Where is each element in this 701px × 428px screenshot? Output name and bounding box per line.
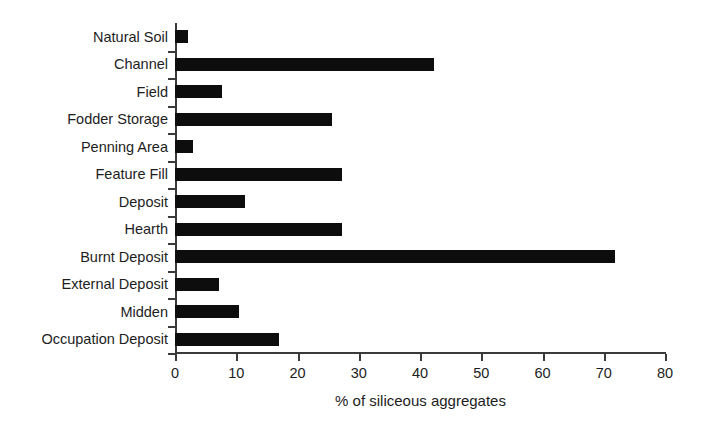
bar xyxy=(175,195,245,208)
x-axis-tick xyxy=(298,354,300,361)
y-axis-tick xyxy=(168,106,175,108)
bar xyxy=(175,223,342,236)
x-axis-tick xyxy=(481,354,483,361)
bar xyxy=(175,333,279,346)
x-axis-tick xyxy=(236,354,238,361)
plot-area xyxy=(175,23,665,353)
y-axis-label: Midden xyxy=(7,305,175,320)
bar-row xyxy=(175,78,665,106)
x-axis-tick-label: 50 xyxy=(461,365,501,381)
bar xyxy=(175,250,615,263)
bar-row xyxy=(175,326,665,354)
x-axis-tick xyxy=(665,354,667,361)
bar xyxy=(175,85,222,98)
bar xyxy=(175,168,342,181)
bar-row xyxy=(175,51,665,79)
x-axis-tick-label: 30 xyxy=(339,365,379,381)
y-axis-tick xyxy=(168,326,175,328)
y-axis-tick xyxy=(168,78,175,80)
y-axis-label: Field xyxy=(7,85,175,100)
x-axis-tick xyxy=(175,354,177,361)
y-axis-tick xyxy=(168,271,175,273)
y-axis-tick xyxy=(168,243,175,245)
bar xyxy=(175,305,239,318)
bar-row xyxy=(175,188,665,216)
x-axis-tick-label: 60 xyxy=(523,365,563,381)
x-axis-tick xyxy=(420,354,422,361)
y-axis-tick xyxy=(168,298,175,300)
bar-row xyxy=(175,216,665,244)
y-axis-label: Burnt Deposit xyxy=(7,250,175,265)
y-axis-label: Occupation Deposit xyxy=(7,332,175,347)
y-axis-label: Natural Soil xyxy=(7,30,175,45)
x-axis-tick xyxy=(359,354,361,361)
bar xyxy=(175,278,219,291)
x-axis-tick xyxy=(543,354,545,361)
x-axis-tick-label: 0 xyxy=(155,365,195,381)
y-axis-tick xyxy=(168,216,175,218)
y-axis-label: Feature Fill xyxy=(7,167,175,182)
bar-row xyxy=(175,23,665,51)
y-axis-label: External Deposit xyxy=(7,277,175,292)
x-axis-title: % of siliceous aggregates xyxy=(175,392,666,410)
bar-row xyxy=(175,271,665,299)
y-axis-tick xyxy=(168,161,175,163)
bar-row xyxy=(175,298,665,326)
y-axis-label: Fodder Storage xyxy=(7,112,175,127)
y-axis-category-labels: Natural SoilChannelFieldFodder StoragePe… xyxy=(0,23,175,353)
bar-row xyxy=(175,133,665,161)
y-axis-tick xyxy=(168,51,175,53)
bar-row xyxy=(175,243,665,271)
y-axis-tick xyxy=(168,353,175,355)
x-axis-tick-label: 20 xyxy=(278,365,318,381)
bar-row xyxy=(175,106,665,134)
x-axis-tick-label: 80 xyxy=(645,365,685,381)
x-axis-tick-label: 10 xyxy=(216,365,256,381)
bar xyxy=(175,58,434,71)
x-axis-tick-label: 70 xyxy=(584,365,624,381)
x-axis-tick xyxy=(604,354,606,361)
bar xyxy=(175,140,193,153)
y-axis-label: Deposit xyxy=(7,195,175,210)
bar-chart-figure: Natural SoilChannelFieldFodder StoragePe… xyxy=(0,0,701,428)
x-axis-tick-label: 40 xyxy=(400,365,440,381)
bar xyxy=(175,113,332,126)
y-axis-tick xyxy=(168,188,175,190)
y-axis-label: Penning Area xyxy=(7,140,175,155)
y-axis-tick xyxy=(168,133,175,135)
bar xyxy=(175,30,188,43)
y-axis-label: Hearth xyxy=(7,222,175,237)
y-axis-label: Channel xyxy=(7,57,175,72)
bar-row xyxy=(175,161,665,189)
